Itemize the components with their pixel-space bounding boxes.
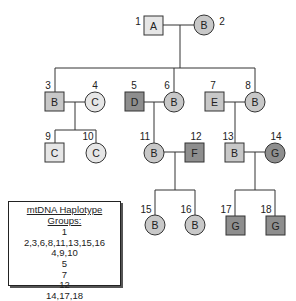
svg-text:D: D <box>131 96 139 108</box>
individual-11[interactable]: B 11 <box>140 131 164 163</box>
individual-17[interactable]: G 17 <box>220 204 245 235</box>
svg-text:9: 9 <box>45 131 51 142</box>
svg-text:B: B <box>170 96 177 108</box>
individual-10[interactable]: C 10 <box>82 131 106 163</box>
svg-text:B: B <box>191 219 198 231</box>
svg-text:6: 6 <box>164 80 170 91</box>
svg-text:C: C <box>92 147 100 159</box>
legend-group: 14,17,18 <box>9 291 120 301</box>
svg-text:B: B <box>231 147 238 159</box>
svg-text:B: B <box>51 96 58 108</box>
svg-text:F: F <box>191 147 197 159</box>
svg-text:B: B <box>200 19 207 31</box>
svg-text:13: 13 <box>222 131 234 142</box>
individual-16[interactable]: B 16 <box>180 204 205 235</box>
connector-lines <box>55 25 275 219</box>
individual-13[interactable]: B 13 <box>222 131 244 162</box>
svg-text:A: A <box>150 20 157 32</box>
svg-text:B: B <box>151 219 158 231</box>
svg-text:E: E <box>211 96 218 108</box>
legend-title: mtDNA Haplotype Groups: <box>9 205 120 226</box>
svg-text:G: G <box>271 220 279 232</box>
svg-text:18: 18 <box>260 204 272 215</box>
svg-text:2: 2 <box>219 16 225 27</box>
svg-text:15: 15 <box>140 204 152 215</box>
legend-group: 5 <box>9 259 120 270</box>
svg-text:5: 5 <box>131 80 137 91</box>
svg-text:3: 3 <box>45 80 51 91</box>
individual-5[interactable]: D 5 <box>125 80 144 111</box>
svg-text:C: C <box>91 96 99 108</box>
individual-4[interactable]: C 4 <box>85 80 105 112</box>
individual-7[interactable]: E 7 <box>205 80 224 111</box>
individual-1[interactable]: A 1 <box>135 16 163 35</box>
svg-text:10: 10 <box>82 131 94 142</box>
svg-text:4: 4 <box>92 80 98 91</box>
svg-text:G: G <box>271 147 279 159</box>
svg-text:8: 8 <box>245 80 251 91</box>
svg-text:17: 17 <box>220 204 232 215</box>
individual-14[interactable]: G 14 <box>265 131 285 163</box>
individual-2[interactable]: B 2 <box>194 15 225 35</box>
svg-text:7: 7 <box>210 80 216 91</box>
svg-text:C: C <box>51 147 59 159</box>
individual-12[interactable]: F 12 <box>185 131 204 162</box>
individual-15[interactable]: B 15 <box>140 204 165 235</box>
svg-text:B: B <box>150 147 157 159</box>
svg-text:G: G <box>231 220 239 232</box>
haplotype-legend: mtDNA Haplotype Groups: 1 2,3,6,8,11,13,… <box>8 201 121 286</box>
svg-text:16: 16 <box>180 204 192 215</box>
svg-text:14: 14 <box>270 131 282 142</box>
svg-text:1: 1 <box>135 16 141 27</box>
svg-text:B: B <box>251 96 258 108</box>
svg-text:11: 11 <box>140 131 151 142</box>
individual-18[interactable]: G 18 <box>260 204 285 235</box>
svg-text:12: 12 <box>190 131 202 142</box>
